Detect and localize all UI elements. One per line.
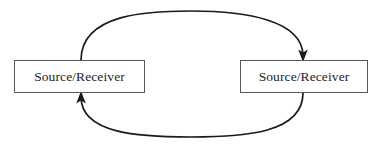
top-arc-path (81, 11, 303, 60)
bottom-arc-connector (76, 91, 303, 137)
node-right-label: Source/Receiver (259, 70, 350, 84)
bottom-arc-path (81, 93, 303, 137)
node-source-receiver-left[interactable]: Source/Receiver (14, 60, 145, 93)
node-source-receiver-right[interactable]: Source/Receiver (240, 60, 368, 93)
diagram-canvas: Source/Receiver Source/Receiver (0, 0, 380, 150)
top-arc-connector (81, 11, 308, 62)
node-left-label: Source/Receiver (34, 70, 125, 84)
